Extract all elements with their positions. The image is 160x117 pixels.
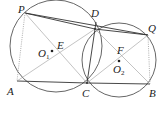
- label-o2-sub: 2: [121, 69, 125, 77]
- segment-qb: [148, 35, 150, 84]
- segment-pa: [17, 13, 25, 81]
- label-o2: O: [113, 63, 121, 75]
- point-o1: [51, 50, 54, 53]
- segment-dc: [87, 29, 95, 83]
- label-f: F: [116, 44, 124, 56]
- point-d: [94, 28, 96, 30]
- label-q: Q: [148, 22, 156, 34]
- label-b: B: [149, 87, 156, 99]
- point-c: [86, 82, 88, 84]
- segment-pq: [25, 13, 148, 35]
- label-e: E: [56, 39, 64, 51]
- segment-pc: [25, 13, 87, 83]
- label-o1-sub: 1: [46, 53, 50, 61]
- segment-cb: [87, 83, 150, 84]
- label-a: A: [6, 85, 14, 97]
- segment-pd: [25, 13, 95, 29]
- label-d: D: [90, 7, 99, 19]
- segment-cq: [87, 35, 148, 83]
- label-c: C: [82, 87, 90, 99]
- geometry-figure: P D Q A C B E F O 1 O 2: [0, 0, 160, 117]
- point-o2: [118, 60, 121, 63]
- label-o1: O: [38, 47, 46, 59]
- label-p: P: [17, 3, 25, 15]
- segment-ad: [17, 29, 95, 81]
- segment-d-up: [95, 22, 96, 29]
